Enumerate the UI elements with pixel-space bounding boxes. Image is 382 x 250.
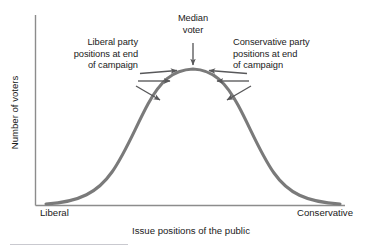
figure-bell-curve: Liberal party positions at end of campai… (0, 0, 382, 250)
liberal-arrow-1 (140, 71, 177, 74)
voter-distribution-curve (46, 69, 340, 204)
x-axis-title: Issue positions of the public (0, 225, 382, 236)
annotation-conservative-party: Conservative party positions at end of c… (233, 37, 343, 72)
annotation-liberal-party: Liberal party positions at end of campai… (52, 37, 138, 72)
y-axis-title: Number of voters (9, 53, 20, 173)
annotation-median-voter: Median voter (160, 13, 226, 36)
x-axis-tick-label-liberal: Liberal (40, 207, 69, 218)
x-axis-tick-label-conservative: Conservative (297, 207, 353, 218)
